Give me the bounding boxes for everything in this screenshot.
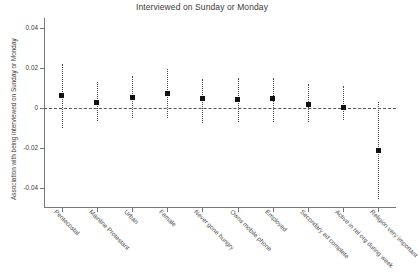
y-tick: 0 [40,108,44,109]
y-tick: 0.02 [40,68,44,69]
data-point [94,100,99,105]
y-axis-line [44,18,45,208]
y-tick-label: 0 [34,104,38,111]
plot-area: 0.040.020-0.02-0.04 [44,18,396,208]
confidence-interval-bar [343,86,344,120]
y-tick-label: 0.02 [26,64,38,71]
x-category-label: Urban [123,208,140,225]
x-category-label: Female [158,208,178,228]
y-tick-label: -0.02 [23,144,38,151]
y-axis-title: Association with being interviewed on Su… [10,38,17,200]
y-axis-title-container: Association with being interviewed on Su… [0,0,13,210]
data-point [270,96,275,101]
y-tick: -0.04 [40,188,44,189]
x-axis-category-labels: PentecostalMainline ProtestantUrbanFemal… [44,208,396,277]
x-category-label: Pentecostal [53,208,81,236]
x-category-label: Employed [264,208,289,233]
data-point [200,96,205,101]
y-tick: 0.04 [40,28,44,29]
data-point [376,148,381,153]
x-category-label: Active in rel org during week [334,208,395,269]
data-point [130,95,135,100]
data-point [341,105,346,110]
y-tick-label: -0.04 [23,184,38,191]
y-tick: -0.02 [40,148,44,149]
page-title: Interviewed on Sunday or Monday [0,2,404,12]
y-tick-label: 0.04 [26,24,38,31]
data-point [165,91,170,96]
data-point [306,102,311,107]
data-point [235,97,240,102]
data-point [59,93,64,98]
